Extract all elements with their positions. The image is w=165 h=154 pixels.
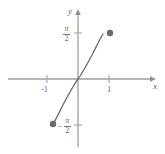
endpoint-dot-lower-left [50, 121, 56, 127]
pi-over-2-fraction: π 2 [63, 25, 70, 44]
neg-pi-over-2-fraction: π 2 [64, 117, 71, 136]
x-tick-label-pos1: 1 [107, 85, 111, 94]
pi-over-2-denominator: 2 [64, 35, 70, 43]
y-tick-label-neg-pi-over-2: − π 2 [58, 117, 71, 136]
x-tick-label-neg1: -1 [41, 85, 48, 94]
neg-pi-over-2-denominator: 2 [64, 127, 70, 135]
neg-pi-over-2-numerator: π [64, 117, 70, 125]
pi-over-2-numerator: π [63, 25, 69, 33]
y-axis-arrow-icon [75, 9, 81, 15]
x-axis-label: x [153, 82, 157, 91]
y-tick-label-pi-over-2: π 2 [62, 25, 70, 44]
neg-pi-over-2-minus-sign: − [58, 122, 63, 131]
y-axis-label: y [68, 7, 72, 16]
endpoint-dot-upper-right [107, 30, 113, 36]
function-graph-figure: y x -1 1 π 2 − π 2 [0, 0, 165, 154]
plot-canvas [0, 0, 165, 154]
